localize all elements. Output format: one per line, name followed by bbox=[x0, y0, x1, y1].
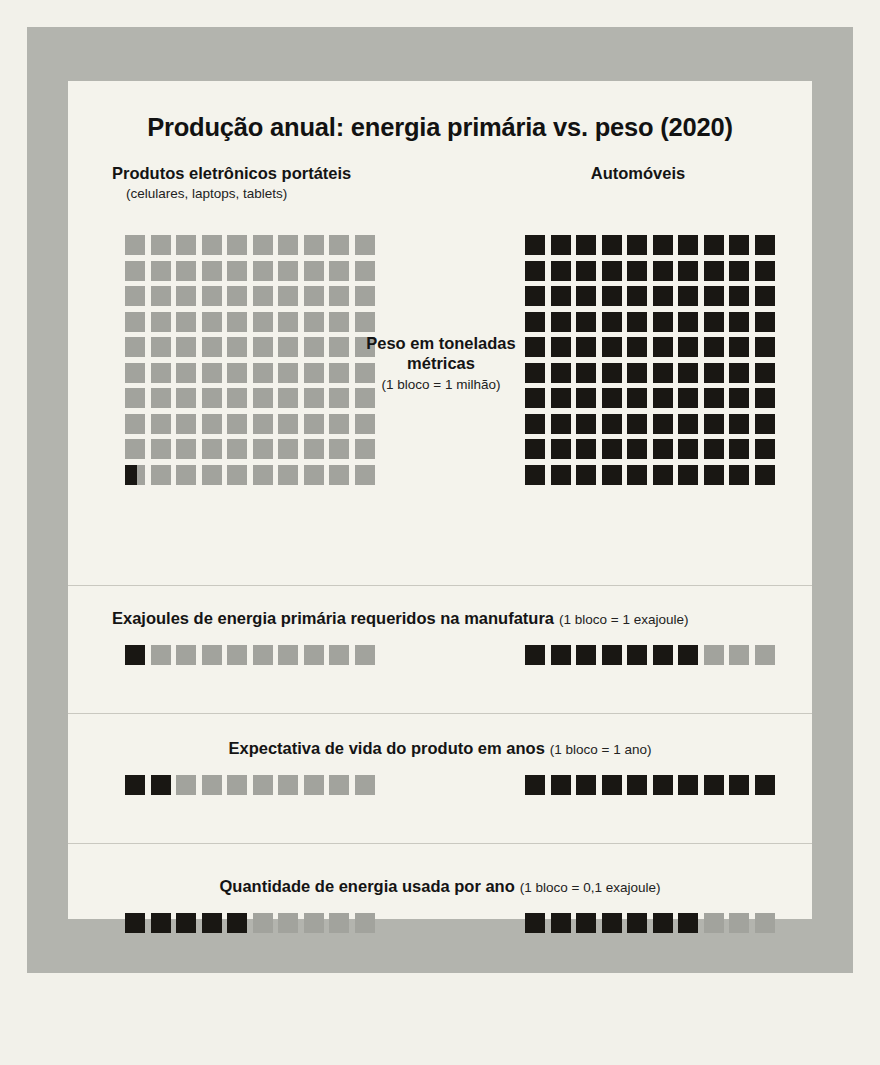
pictogram-block bbox=[253, 645, 273, 665]
pictogram-block bbox=[576, 363, 596, 383]
pictogram-block bbox=[125, 414, 145, 434]
pictogram-block bbox=[525, 286, 545, 306]
pictogram-block bbox=[125, 388, 145, 408]
pictogram-block bbox=[151, 414, 171, 434]
pictogram-block bbox=[729, 261, 749, 281]
pictogram-block bbox=[304, 363, 324, 383]
pictogram-block bbox=[525, 913, 545, 933]
pictogram-block bbox=[253, 465, 273, 485]
pictogram-block bbox=[576, 337, 596, 357]
pictogram-block bbox=[755, 363, 775, 383]
pictogram-block bbox=[576, 235, 596, 255]
pictogram-block bbox=[704, 286, 724, 306]
pictogram-block bbox=[755, 235, 775, 255]
pictogram-block bbox=[278, 363, 298, 383]
pictogram-block bbox=[329, 775, 349, 795]
pictogram-block bbox=[278, 414, 298, 434]
pictogram-block bbox=[627, 337, 647, 357]
pictogram-block bbox=[253, 363, 273, 383]
pictogram-block bbox=[525, 465, 545, 485]
pictogram-block bbox=[176, 235, 196, 255]
pictogram-block bbox=[551, 439, 571, 459]
pictogram-block bbox=[355, 235, 375, 255]
section-weight: Produtos eletrônicos portáteis (celulare… bbox=[68, 163, 812, 583]
pictogram-block bbox=[602, 414, 622, 434]
pictogram-block bbox=[227, 235, 247, 255]
pictogram-block bbox=[755, 439, 775, 459]
pictogram-block bbox=[151, 465, 171, 485]
pictogram-block bbox=[627, 775, 647, 795]
weight-caption-note: (1 bloco = 1 milhão) bbox=[356, 377, 526, 392]
pictogram-block bbox=[704, 645, 724, 665]
column-subtitle-electronics: (celulares, laptops, tablets) bbox=[126, 186, 412, 201]
section-header: Quantidade de energia usada por ano(1 bl… bbox=[68, 877, 812, 896]
pictogram-block bbox=[278, 775, 298, 795]
pictogram-block bbox=[678, 414, 698, 434]
pictogram-block bbox=[551, 645, 571, 665]
section-label: Expectativa de vida do produto em anos bbox=[228, 739, 544, 757]
pictogram-block bbox=[125, 312, 145, 332]
pictogram-block bbox=[355, 775, 375, 795]
pictogram-block bbox=[729, 439, 749, 459]
weight-caption-line1: Peso em toneladas bbox=[356, 333, 526, 353]
pictogram-block bbox=[602, 913, 622, 933]
pictogram-block bbox=[304, 414, 324, 434]
pictogram-block bbox=[125, 775, 145, 795]
pictogram-block bbox=[355, 414, 375, 434]
pictogram-block bbox=[329, 913, 349, 933]
pictogram-block bbox=[653, 235, 673, 255]
section-header: Expectativa de vida do produto em anos(1… bbox=[68, 739, 812, 758]
pictogram-block bbox=[576, 465, 596, 485]
pictogram-block bbox=[355, 261, 375, 281]
pictogram-block bbox=[278, 312, 298, 332]
pictogram-block bbox=[627, 439, 647, 459]
pictogram-block bbox=[304, 312, 324, 332]
column-header-electronics: Produtos eletrônicos portáteis (celulare… bbox=[112, 163, 412, 201]
pictogram-block bbox=[253, 913, 273, 933]
pictogram-block bbox=[551, 388, 571, 408]
pictogram-block bbox=[176, 465, 196, 485]
pictogram-block bbox=[329, 235, 349, 255]
pictogram-block bbox=[551, 363, 571, 383]
pictogram-block bbox=[653, 414, 673, 434]
pictogram-block bbox=[202, 235, 222, 255]
strip-electronics bbox=[125, 645, 375, 665]
pictogram-block bbox=[355, 645, 375, 665]
pictogram-block bbox=[125, 363, 145, 383]
weight-caption-line2: métricas bbox=[356, 353, 526, 373]
pictogram-block bbox=[525, 775, 545, 795]
pictogram-block bbox=[227, 388, 247, 408]
pictogram-block bbox=[729, 414, 749, 434]
pictogram-block bbox=[704, 775, 724, 795]
pictogram-block bbox=[729, 312, 749, 332]
pictogram-block bbox=[151, 775, 171, 795]
pictogram-block bbox=[227, 261, 247, 281]
pictogram-block bbox=[576, 645, 596, 665]
pictogram-block bbox=[755, 337, 775, 357]
pictogram-block bbox=[253, 388, 273, 408]
pictogram-block bbox=[627, 913, 647, 933]
pictogram-block bbox=[227, 439, 247, 459]
pictogram-block bbox=[227, 312, 247, 332]
strip-automobiles bbox=[525, 645, 775, 665]
pictogram-strip bbox=[525, 645, 775, 665]
pictogram-block bbox=[525, 235, 545, 255]
pictogram-block bbox=[253, 286, 273, 306]
pictogram-block bbox=[551, 414, 571, 434]
pictogram-strip bbox=[525, 775, 775, 795]
pictogram-block bbox=[678, 235, 698, 255]
pictogram-block bbox=[151, 337, 171, 357]
pictogram-block bbox=[278, 337, 298, 357]
pictogram-block bbox=[176, 775, 196, 795]
pictogram-block bbox=[278, 913, 298, 933]
pictogram-block bbox=[329, 645, 349, 665]
pictogram-block bbox=[202, 363, 222, 383]
pictogram-block bbox=[202, 645, 222, 665]
pictogram-block bbox=[278, 235, 298, 255]
pictogram-block bbox=[678, 645, 698, 665]
pictogram-block bbox=[704, 414, 724, 434]
pictogram-block bbox=[253, 439, 273, 459]
pictogram-block bbox=[602, 645, 622, 665]
pictogram-block bbox=[729, 235, 749, 255]
pictogram-block bbox=[253, 414, 273, 434]
